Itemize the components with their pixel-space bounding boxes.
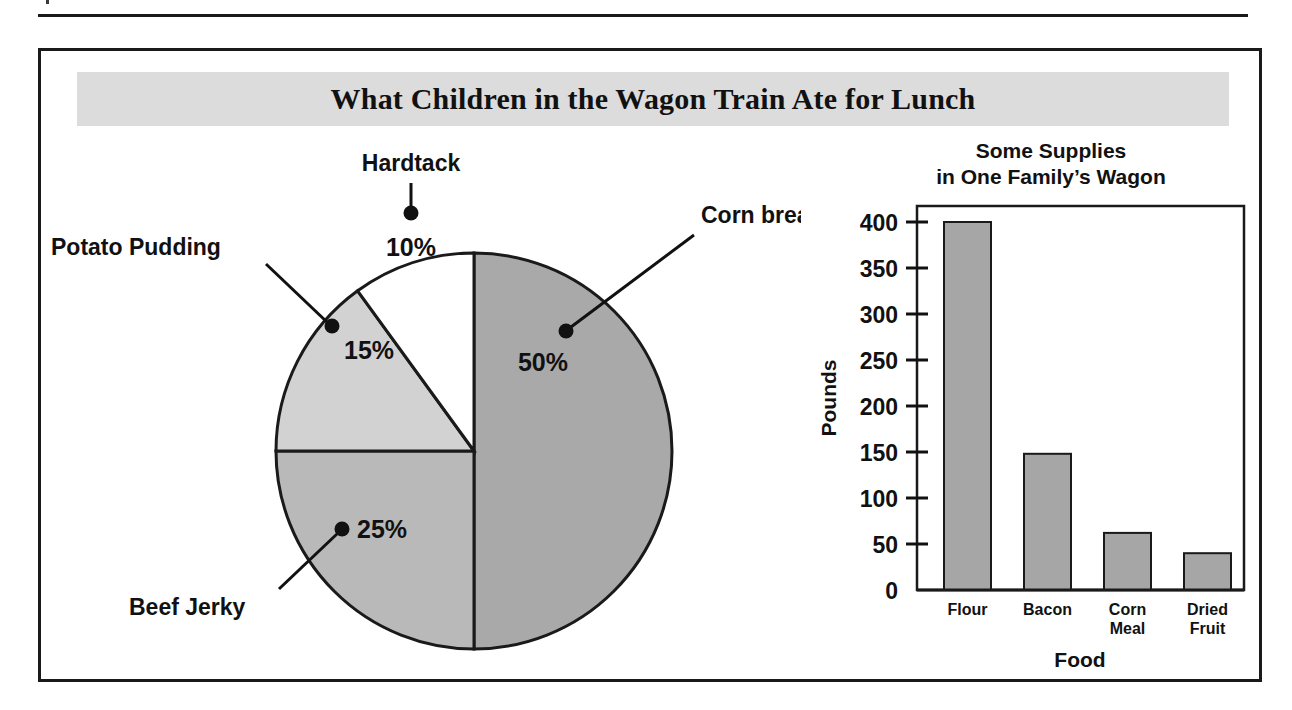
pie-label-beef-jerky: Beef Jerky [129, 594, 246, 620]
xtick-label-corn-meal-line1: Corn [1109, 601, 1146, 618]
pie-label-hardtack: Hardtack [362, 150, 461, 176]
ytick-label-300: 300 [860, 302, 898, 328]
pie-chart-svg: Hardtack 10% Potato Pudding 15% Beef Jer… [41, 141, 801, 681]
ytick-label-400: 400 [860, 210, 898, 236]
pie-slice-beef-jerky [276, 451, 474, 649]
pie-pct-hardtack: 10% [386, 233, 436, 261]
xtick-label-dried-fruit-line2: Fruit [1190, 620, 1226, 637]
bar-dried-fruit [1184, 553, 1231, 590]
potato-pudding-leader-dot [325, 319, 340, 334]
ytick-label-150: 150 [860, 440, 898, 466]
pie-pct-beef-jerky: 25% [357, 515, 407, 543]
ytick-label-0: 0 [885, 578, 898, 604]
figure-title-banner: What Children in the Wagon Train Ate for… [77, 72, 1229, 126]
xtick-label-corn-meal-line2: Meal [1110, 620, 1146, 637]
xtick-label-flour-line1: Flour [948, 601, 988, 618]
bar-corn-meal [1104, 533, 1151, 590]
potato-pudding-leader-line [266, 264, 328, 323]
pie-pct-corn-bread: 50% [518, 348, 568, 376]
ytick-label-50: 50 [872, 532, 898, 558]
bar-chart-title-line2: in One Family’s Wagon [936, 165, 1165, 188]
pie-pct-potato-pudding: 15% [344, 336, 394, 364]
ytick-label-200: 200 [860, 394, 898, 420]
bar-bacon [1024, 454, 1071, 590]
bar-chart-svg: Some Supplies in One Family’s Wagon 400 … [786, 126, 1256, 686]
bar-xaxis-title: Food [1054, 648, 1105, 671]
bar-yaxis-title: Pounds [817, 360, 840, 437]
pie-slice-corn-bread [474, 253, 672, 649]
bar-flour [944, 222, 991, 590]
corn-bread-leader-dot [559, 324, 574, 339]
page-speck [46, 0, 49, 4]
figure-title: What Children in the Wagon Train Ate for… [331, 82, 976, 116]
bar-chart-title-line1: Some Supplies [976, 139, 1127, 162]
beef-jerky-leader-dot [335, 522, 350, 537]
bar-chart: Some Supplies in One Family’s Wagon 400 … [786, 126, 1256, 686]
figure-frame: What Children in the Wagon Train Ate for… [38, 48, 1262, 682]
ytick-label-350: 350 [860, 256, 898, 282]
ytick-label-100: 100 [860, 486, 898, 512]
top-horizontal-rule [38, 14, 1248, 17]
corn-bread-leader-line [571, 235, 694, 327]
pie-chart: Hardtack 10% Potato Pudding 15% Beef Jer… [41, 141, 801, 681]
hardtack-leader-dot [404, 206, 419, 221]
xtick-label-dried-fruit-line1: Dried [1187, 601, 1228, 618]
pie-label-potato-pudding: Potato Pudding [51, 234, 221, 260]
xtick-label-bacon-line1: Bacon [1023, 601, 1072, 618]
ytick-label-250: 250 [860, 348, 898, 374]
